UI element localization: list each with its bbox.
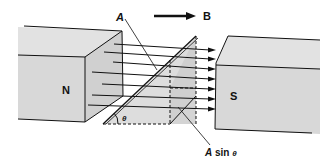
angle-label: θ: [122, 114, 127, 123]
magnetic-flux-diagram: N S θ A B A sin θ: [0, 0, 334, 167]
projected-area-label: A sin θ: [204, 147, 237, 158]
projected-area-angle: θ: [232, 149, 237, 158]
field-label: B: [203, 10, 211, 22]
north-magnet-front: [18, 55, 85, 122]
projected-area-var: A: [204, 147, 212, 158]
south-pole-label: S: [230, 90, 237, 102]
field-line-arrowhead: [208, 48, 216, 53]
field-line-arrowhead: [208, 87, 216, 92]
field-line-arrowhead: [208, 77, 216, 82]
diagram-svg: N S θ A B A sin θ: [0, 0, 334, 167]
field-line-arrowhead: [208, 67, 216, 72]
field-line-arrowhead: [208, 57, 216, 62]
field-line-arrowhead: [208, 97, 216, 102]
south-magnet-top: [216, 36, 320, 69]
north-pole-label: N: [62, 84, 70, 96]
area-label: A: [115, 11, 124, 23]
south-magnet: S: [215, 36, 320, 134]
projected-area-func: sin: [212, 147, 232, 158]
field-direction-arrow: [154, 12, 196, 20]
north-magnet: N: [18, 26, 123, 122]
